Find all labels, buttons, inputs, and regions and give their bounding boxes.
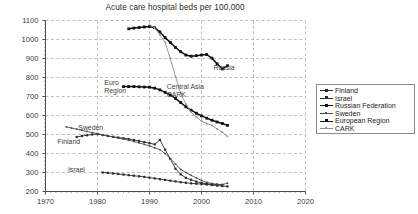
legend-marker-icon	[320, 95, 333, 102]
y-axis-tick-label: 1100	[13, 16, 39, 25]
y-axis-tick-label: 900	[13, 54, 39, 63]
legend-marker-icon	[320, 110, 333, 117]
x-axis-tick-label: 1990	[135, 197, 165, 206]
legend-label: Israel	[335, 95, 352, 103]
x-axis-tick-label: 2020	[291, 197, 321, 206]
x-axis-tick-label: 1970	[31, 197, 61, 206]
x-axis-tick-label: 2010	[239, 197, 269, 206]
y-axis-tick-label: 700	[13, 92, 39, 101]
y-axis-tick-label: 200	[13, 187, 39, 196]
y-axis-tick-label: 1000	[13, 35, 39, 44]
legend-label: Finland	[335, 87, 358, 95]
legend-marker-icon	[320, 102, 333, 109]
legend-item-european-region[interactable]: European Region	[320, 117, 412, 125]
y-axis-tick-label: 600	[13, 111, 39, 120]
legend-item-sweden[interactable]: Sweden	[320, 110, 412, 118]
series-annotation: Russia	[214, 64, 235, 72]
legend-marker-icon	[320, 118, 333, 125]
legend-item-cark[interactable]: CARK	[320, 125, 412, 133]
series-annotation: Central AsiaCARK	[167, 83, 204, 98]
legend-item-russian-federation[interactable]: Russian Federation	[320, 102, 412, 110]
legend-label: Sweden	[335, 110, 360, 118]
y-axis-tick-label: 800	[13, 73, 39, 82]
x-axis-tick-label: 2000	[187, 197, 217, 206]
series-annotation: Israel	[68, 166, 85, 174]
series-annotation: Finland	[58, 138, 81, 146]
legend-marker-icon	[320, 87, 333, 94]
legend-item-israel[interactable]: Israel	[320, 95, 412, 103]
chart-legend: FinlandIsraelRussian FederationSwedenEur…	[316, 84, 415, 134]
legend-item-finland[interactable]: Finland	[320, 87, 412, 95]
legend-label: CARK	[335, 125, 354, 133]
legend-label: European Region	[335, 117, 390, 125]
series-annotation: Sweden	[78, 124, 103, 132]
legend-label: Russian Federation	[335, 102, 396, 110]
legend-marker-icon	[320, 125, 333, 132]
y-axis-tick-label: 500	[13, 130, 39, 139]
series-annotation: EuroRegion	[104, 79, 126, 94]
chart-figure: Acute care hospital beds per 100,000 200…	[0, 0, 418, 214]
y-axis-tick-label: 400	[13, 149, 39, 158]
y-axis-tick-label: 300	[13, 168, 39, 177]
x-axis-tick-label: 1980	[83, 197, 113, 206]
